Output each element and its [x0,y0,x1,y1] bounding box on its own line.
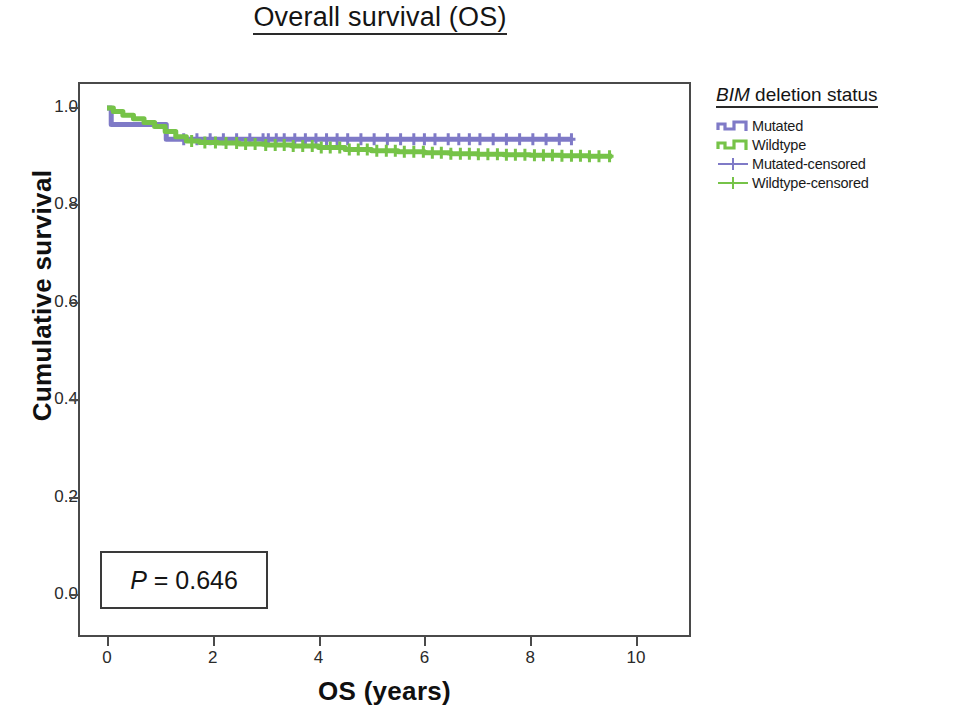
x-axis-tick-mark [636,637,638,646]
legend-item-label: Wildtype-censored [752,175,869,191]
pvalue-value: = 0.646 [147,566,238,594]
legend-item: Wildtype [716,136,948,154]
x-axis-tick-label: 4 [294,648,344,668]
x-axis-tick-mark [107,637,109,646]
legend-item-label: Mutated [752,118,803,134]
y-axis-tick-mark [69,302,78,304]
legend-title-rest: deletion status [750,84,878,105]
legend-items: MutatedWildtypeMutated-censoredWildtype-… [716,117,948,192]
legend-item-label: Wildtype [752,137,806,153]
legend-title-gene: BIM [716,84,750,105]
y-axis-tick-mark [69,399,78,401]
pvalue-text: P = 0.646 [130,566,238,595]
y-axis-tick-mark [69,594,78,596]
chart-title: Overall survival (OS) [0,2,760,33]
legend-item: Mutated [716,117,948,135]
legend-title: BIM deletion status [716,84,948,106]
y-axis-tick-mark [69,497,78,499]
legend-censor-marker-icon [716,175,750,191]
legend-item: Mutated-censored [716,155,948,173]
pvalue-annotation-box: P = 0.646 [100,551,268,609]
legend: BIM deletion status MutatedWildtypeMutat… [716,84,948,193]
legend-item: Wildtype-censored [716,174,948,192]
x-axis-title: OS (years) [78,676,691,707]
y-axis-tick-mark [69,107,78,109]
pvalue-symbol: P [130,566,147,594]
y-axis-title: Cumulative survival [27,86,58,506]
legend-step-line-icon [716,118,750,134]
x-axis-tick-mark [424,637,426,646]
legend-step-line-icon [716,137,750,153]
x-axis-tick-mark [213,637,215,646]
x-axis-tick-label: 0 [82,648,132,668]
legend-title-underline: BIM deletion status [716,84,878,108]
x-axis-tick-mark [319,637,321,646]
legend-item-label: Mutated-censored [752,156,866,172]
x-axis-tick-label: 6 [399,648,449,668]
x-axis-tick-label: 10 [611,648,661,668]
x-axis-tick-mark [530,637,532,646]
legend-censor-marker-icon [716,156,750,172]
y-axis-tick-mark [69,204,78,206]
x-axis-tick-label: 8 [505,648,555,668]
chart-title-text: Overall survival (OS) [253,2,506,35]
x-axis-tick-label: 2 [188,648,238,668]
